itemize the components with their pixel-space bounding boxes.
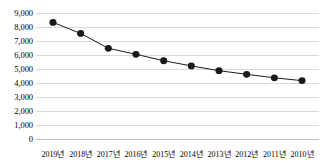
plot-area (36, 13, 319, 139)
y-axis-tick-labels: 9,0008,0007,0006,0005,0004,0003,0002,000… (0, 13, 33, 139)
data-point-marker (160, 57, 167, 64)
data-point-marker (77, 30, 84, 37)
data-point-marker (243, 71, 250, 78)
x-axis-tick-label: 2012년 (235, 150, 258, 159)
data-point-marker (215, 67, 222, 74)
x-axis-tick-label: 2019년 (41, 150, 64, 159)
line-chart: 9,0008,0007,0006,0005,0004,0003,0002,000… (0, 0, 323, 164)
data-point-marker (298, 77, 305, 84)
x-axis-tick-label: 2014년 (180, 150, 203, 159)
y-axis-tick-label: 2,000 (0, 107, 33, 116)
y-axis-tick-label: 1,000 (0, 121, 33, 130)
data-point-marker (271, 74, 278, 81)
x-axis-tick-label: 2010년 (291, 150, 314, 159)
data-point-marker (105, 45, 112, 52)
data-point-marker (188, 63, 195, 70)
y-axis-tick-label: 9,000 (0, 9, 33, 18)
series-line (53, 22, 302, 80)
series-markers (49, 19, 305, 84)
x-axis-tick-labels: 2019년2018년2017년2016년2015년2014년2013년2012년… (36, 141, 319, 161)
gridline (36, 139, 319, 140)
x-axis-tick-label: 2013년 (208, 150, 231, 159)
x-axis-tick-label: 2018년 (69, 150, 92, 159)
y-axis-tick-label: 8,000 (0, 23, 33, 32)
x-axis-tick-label: 2017년 (97, 150, 120, 159)
y-axis-tick-label: 3,000 (0, 93, 33, 102)
data-point-marker (49, 19, 56, 26)
series-line-group (36, 13, 319, 139)
x-axis-tick-label: 2015년 (152, 150, 175, 159)
y-axis-tick-label: 6,000 (0, 51, 33, 60)
y-axis-tick-label: 5,000 (0, 65, 33, 74)
y-axis-tick-label: 4,000 (0, 79, 33, 88)
x-axis-tick-label: 2011년 (263, 150, 286, 159)
y-axis-tick-label: 7,000 (0, 37, 33, 46)
x-axis-tick-label: 2016년 (124, 150, 147, 159)
y-axis-tick-label: 0 (0, 135, 33, 144)
data-point-marker (132, 51, 139, 58)
